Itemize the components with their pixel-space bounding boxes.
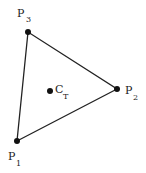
- vertex-p1-label: P: [8, 150, 16, 163]
- vertex-p2-point: [114, 86, 120, 92]
- vertex-p3-point: [25, 29, 31, 35]
- vertex-p1-subscript: 1: [16, 159, 21, 168]
- vertex-p2-label: P: [125, 84, 133, 97]
- vertex-p3-label: P: [17, 7, 25, 20]
- centroid-point: [47, 88, 53, 94]
- vertex-p1-point: [14, 138, 20, 144]
- vertex-p2-subscript: 2: [133, 93, 138, 102]
- triangle-outline: [17, 32, 117, 141]
- triangle-diagram: P 3 P 2 P 1 C T: [0, 0, 146, 173]
- vertex-p3-subscript: 3: [26, 15, 31, 24]
- centroid-subscript: T: [63, 92, 69, 101]
